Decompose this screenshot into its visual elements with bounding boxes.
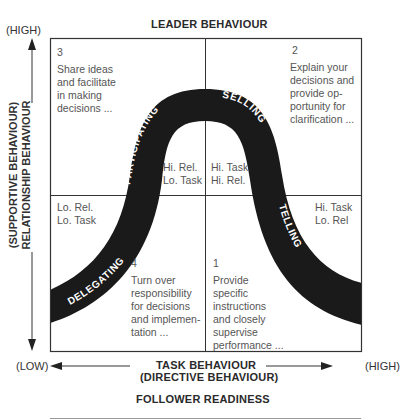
quadrant-3-corner-label: Hi. Rel. Lo. Task xyxy=(163,161,202,187)
quadrant-2-description: Explain your decisions and provide op- p… xyxy=(290,61,354,126)
quadrant-2-corner-label: Hi. Task Hi. Rel. xyxy=(211,161,248,187)
x-axis-label-line2: (DIRECTIVE BEHAVIOUR) xyxy=(140,371,278,383)
y-axis-label-line2: RELATIONSHIP BEHAVIOUR xyxy=(20,100,33,250)
x-axis-label-line1: TASK BEHAVIOUR xyxy=(156,359,256,371)
quadrant-1-description: Provide specific instructions and closel… xyxy=(213,274,284,352)
quadrant-4-number: 4 xyxy=(131,257,137,269)
quadrant-3-description: Share ideas and facilitate in making dec… xyxy=(57,63,116,115)
x-axis-high-label: (HIGH) xyxy=(365,360,400,372)
y-axis-label-line1: (SUPPORTIVE BEHAVIOUR) xyxy=(7,100,20,250)
quadrant-1-corner-label: Hi. Task Lo. Rel xyxy=(315,201,352,227)
x-axis-low-label: (LOW) xyxy=(16,360,48,372)
follower-readiness-label: FOLLOWER READINESS xyxy=(136,393,270,405)
quadrant-3-number: 3 xyxy=(57,46,63,58)
quadrant-2-number: 2 xyxy=(292,44,298,56)
footer-rule xyxy=(50,418,361,419)
quadrant-4-description: Turn over responsibility for decisions a… xyxy=(131,274,200,339)
quadrant-4-corner-label: Lo. Rel. Lo. Task xyxy=(57,201,96,227)
quadrant-1-number: 1 xyxy=(213,257,219,269)
y-axis-label: (SUPPORTIVE BEHAVIOUR) RELATIONSHIP BEHA… xyxy=(7,100,35,250)
